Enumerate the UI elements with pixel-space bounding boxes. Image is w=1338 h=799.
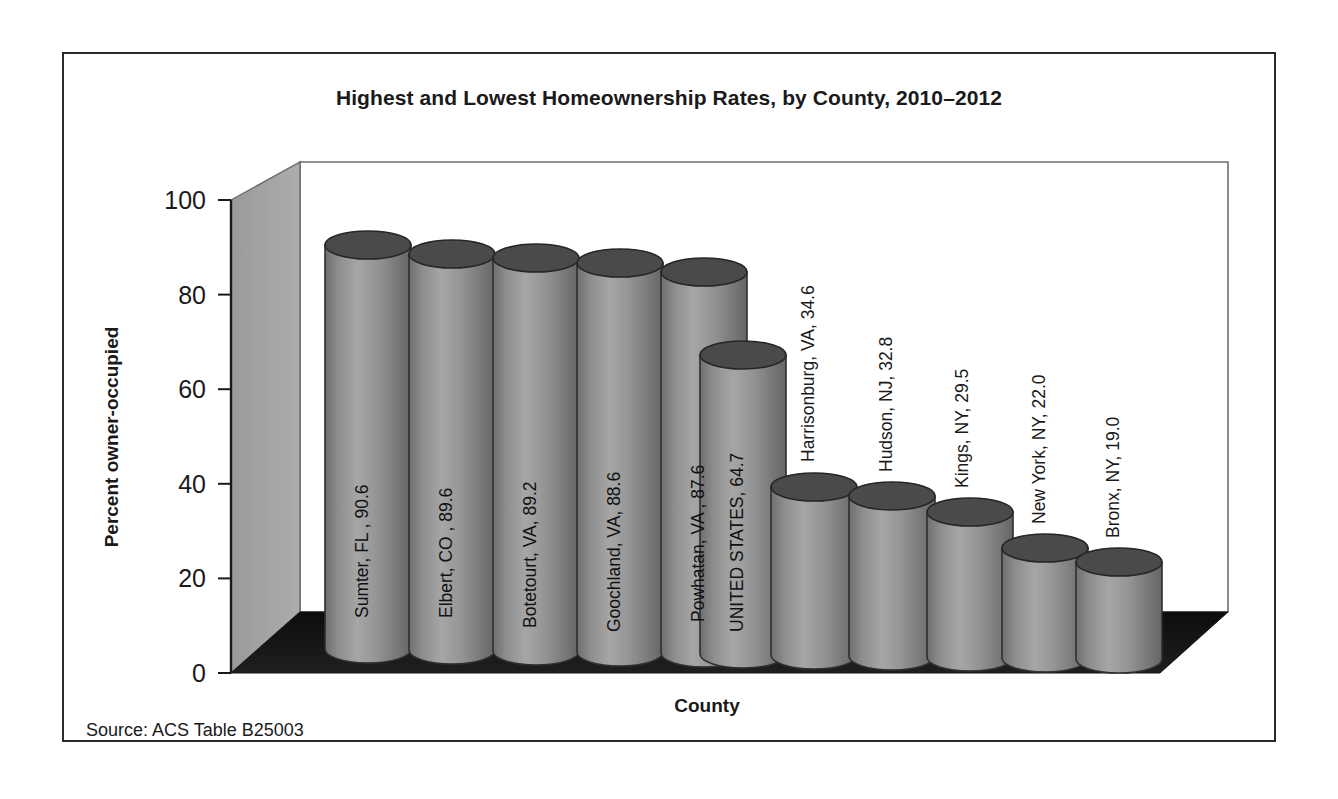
- bar-label-hudson-nj: Hudson, NJ, 32.8: [876, 337, 896, 472]
- y-axis-title: Percent owner-occupied: [101, 327, 122, 548]
- bar-label-bronx-ny: Bronx, NY, 19.0: [1103, 416, 1123, 538]
- y-tick-label-0: 0: [192, 659, 206, 687]
- chart-title: Highest and Lowest Homeownership Rates, …: [336, 86, 1002, 109]
- bar-label-elbert-co: Elbert, CO , 89.6: [436, 488, 456, 618]
- bar-label-united-states: UNITED STATES, 64.7: [727, 453, 747, 632]
- figure-root: Highest and Lowest Homeownership Rates, …: [0, 0, 1338, 799]
- bar-label-harrisonburg-va: Harrisonburg, VA, 34.6: [798, 285, 818, 462]
- y-tick-label-20: 20: [178, 564, 206, 592]
- y-axis: 100 80 60 40 20 0 Percent owner-occupied: [101, 186, 231, 687]
- bar-label-kings-ny: Kings, NY, 29.5: [952, 369, 972, 488]
- bar-label-sumter-fl: Sumter, FL , 90.6: [352, 484, 372, 618]
- bar-harrisonburg-va[interactable]: [771, 473, 857, 669]
- x-axis-title: County: [674, 695, 740, 716]
- bar-label-goochland-va: Goochland, VA, 88.6: [604, 472, 624, 632]
- y-tick-label-40: 40: [178, 470, 206, 498]
- y-tick-label-100: 100: [164, 186, 206, 214]
- bar-label-botetourt-va: Botetourt, VA, 89.2: [520, 481, 540, 628]
- source-note: Source: ACS Table B25003: [86, 720, 304, 740]
- y-tick-label-60: 60: [178, 375, 206, 403]
- bar-label-new-york-ny: New York, NY, 22.0: [1029, 374, 1049, 524]
- side-wall: [231, 162, 300, 673]
- bar-new-york-ny[interactable]: [1002, 534, 1088, 672]
- y-tick-label-80: 80: [178, 281, 206, 309]
- chart-canvas: Highest and Lowest Homeownership Rates, …: [0, 0, 1338, 799]
- bar-hudson-nj[interactable]: [849, 482, 935, 670]
- bar-kings-ny[interactable]: [927, 498, 1013, 671]
- bar-label-powhatan-va: Powhatan, VA , 87.6: [688, 465, 708, 622]
- bar-bronx-ny[interactable]: [1076, 548, 1162, 673]
